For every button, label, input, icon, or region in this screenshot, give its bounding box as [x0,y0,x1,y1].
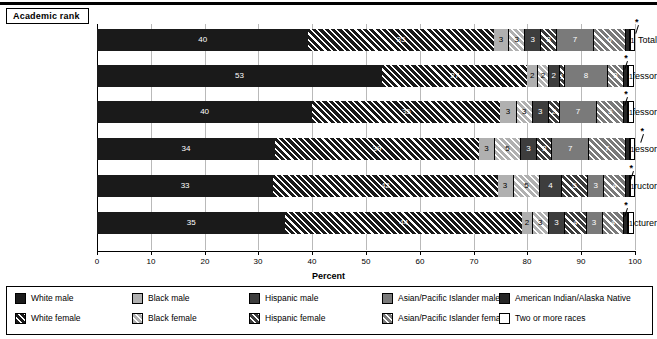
bar-segment-wf: 35 [308,29,493,51]
legend-swatch-wf-icon [15,313,26,324]
legend-swatch-am-icon [382,293,393,304]
table-row: 35442334341 [97,212,635,234]
x-axis-tick-label: 30 [243,257,273,266]
bar-value-label: 35 [402,108,411,116]
bar-value-label: 4 [611,219,615,227]
legend-item-af[interactable]: Asian/Pacific Islander female [382,311,507,325]
bar-segment-hf: 4 [565,212,587,234]
bar-segment-wm: 34 [97,138,275,160]
legend-label: Hispanic male [265,293,318,303]
legend-item-am[interactable]: Asian/Pacific Islander male [382,291,500,305]
legend-swatch-wm-icon [15,293,26,304]
bar-value-label: 2 [541,72,545,80]
bar-segment-af: 4 [604,175,625,197]
bar-value-label: 1 [630,183,634,190]
bar-value-label: 1 [629,109,633,116]
legend-item-bm[interactable]: Black male [132,291,190,305]
bar-segment-wf: 39 [275,138,479,160]
x-axis-tick-label: 40 [297,257,327,266]
legend-label: Black female [148,313,197,323]
bar-value-label: 39 [373,145,382,153]
bar-value-label: 4 [573,219,577,227]
x-axis-tick [205,251,206,255]
bar-value-label: 35 [397,36,406,44]
bar-segment-bm: 3 [494,29,510,51]
bar-value-label: 3 [538,108,542,116]
bar-segment-tm: 1 [628,101,633,123]
bar-segment-hm: 4 [540,175,561,197]
bar-value-label: 1 [629,73,633,80]
gridline [635,24,636,250]
bar-segment-wf: 44 [285,212,522,234]
bar-segment-wf: 35 [312,101,500,123]
bar-segment-hm: 3 [525,29,541,51]
bar-segment-bm: 3 [479,138,495,160]
x-axis-tick [258,251,259,255]
bar-segment-hm: 3 [521,138,537,160]
bar-segment-hf: 3 [537,138,553,160]
bar-value-label: 3 [613,72,617,80]
bar-segment-tm: 1 [628,65,633,87]
bar-segment-bf: 3 [517,101,533,123]
bar-value-label: 27 [450,72,459,80]
bar-segment-hf: 2 [549,101,560,123]
bar-segment-hm: 3 [533,101,549,123]
legend-item-hf[interactable]: Hispanic female [249,311,325,325]
bar-value-label: 3 [530,36,534,44]
legend-swatch-hm-icon [249,293,260,304]
x-axis-tick [420,251,421,255]
bar-value-label: 3 [554,219,558,227]
x-axis-tick [97,251,98,255]
bar-segment-bm: 2 [527,65,538,87]
x-axis-tick [527,251,528,255]
x-axis-tick-label: 10 [136,257,166,266]
bar-segment-wm: 33 [97,175,273,197]
table-row: 40353332751 [97,101,635,123]
table-row: 53272221831 [97,65,635,87]
legend-item-bf[interactable]: Black female [132,311,197,325]
bar-segment-bf: 5 [514,175,541,197]
bar-value-label: 35 [187,219,196,227]
bar-value-label: 2 [525,219,529,227]
x-axis-tick-label: 90 [566,257,596,266]
bar-value-label: 3 [503,182,507,190]
legend-item-tm[interactable]: Two or more races [499,311,585,325]
legend-item-ai[interactable]: American Indian/Alaska Native [499,291,631,305]
bar-value-label: 42 [381,182,390,190]
bar-segment-bf: 3 [509,29,525,51]
bar-value-label: 4 [548,182,552,190]
x-axis-tick [474,251,475,255]
legend-label: White male [31,293,74,303]
bar-value-label: 5 [505,145,509,153]
bar-value-label: 7 [573,36,577,44]
legend-item-wf[interactable]: White female [15,311,81,325]
legend-swatch-af-icon [382,313,393,324]
bar-segment-tm: 1 [630,29,635,51]
bar-segment-hf: 3 [541,29,557,51]
legend-item-hm[interactable]: Hispanic male [249,291,318,305]
bar-segment-am: 7 [560,101,598,123]
bar-segment-wm: 35 [97,212,285,234]
x-axis-tick-label: 0 [82,257,112,266]
bar-value-label: 3 [515,36,519,44]
bar-segment-wm: 53 [97,65,382,87]
legend-swatch-bf-icon [132,313,143,324]
bar-value-label: 2 [552,108,556,116]
bar-value-label: 6 [607,36,611,44]
bar-segment-hm: 2 [549,65,560,87]
bar-value-label: 5 [524,182,528,190]
bar-value-label: 44 [399,219,408,227]
bar-segment-am: 3 [587,212,603,234]
bar-segment-bm: 3 [500,101,516,123]
bar-segment-af: 6 [594,29,626,51]
bar-value-label: 1 [630,146,634,153]
bar-segment-tm: 1 [630,138,635,160]
legend-label: American Indian/Alaska Native [515,293,631,303]
legend-item-wm[interactable]: White male [15,291,74,305]
table-row: 33423545341 [97,175,635,197]
bar-value-label: 4 [612,182,616,190]
bar-value-label: 3 [538,219,542,227]
bar-value-label: 3 [542,145,546,153]
x-axis-title: Percent [0,271,657,281]
top-rule [0,2,657,5]
